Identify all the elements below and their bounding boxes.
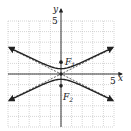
f2-point — [59, 84, 63, 88]
center-point — [59, 72, 63, 76]
x-tick-label: 5 — [110, 76, 116, 86]
y-tick-label: 5 — [52, 16, 58, 26]
y-axis-label: y — [52, 4, 59, 14]
hyperbola-plot: y 5 x 5 F1 F2 — [0, 0, 131, 131]
f1-label: F1 — [64, 57, 75, 68]
x-axis-label: x — [118, 73, 123, 83]
f1-point — [59, 60, 63, 64]
